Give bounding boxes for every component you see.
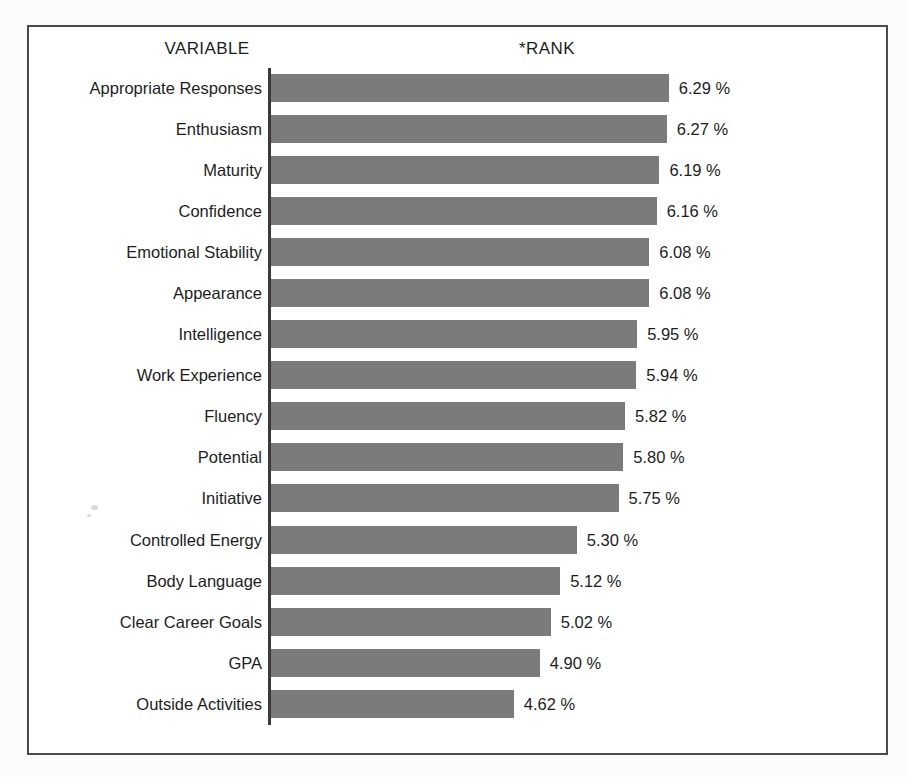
bar-category-label: Body Language — [146, 561, 262, 602]
bar-row: Appearance6.08 % — [29, 273, 890, 314]
bar — [271, 484, 619, 512]
bar-row: Potential5.80 % — [29, 437, 890, 478]
bar — [271, 567, 560, 595]
bar-value-label: 6.29 % — [679, 68, 730, 109]
bar-value-label: 6.27 % — [677, 109, 728, 150]
bar-category-label: Confidence — [179, 191, 262, 232]
bar-row: Work Experience5.94 % — [29, 355, 890, 396]
bar-row: Outside Activities4.62 % — [29, 684, 890, 725]
bar-row: Confidence6.16 % — [29, 191, 890, 232]
bar — [271, 115, 667, 143]
scan-speckle — [91, 505, 98, 510]
bar-row: Clear Career Goals5.02 % — [29, 602, 890, 643]
bar — [271, 402, 625, 430]
bar-track: 6.27 % — [271, 109, 890, 150]
bar-track: 4.90 % — [271, 643, 890, 684]
bar — [271, 526, 577, 554]
bar — [271, 320, 637, 348]
bar-category-label: Controlled Energy — [130, 520, 262, 561]
bar — [271, 156, 659, 184]
bar-category-label: Intelligence — [179, 314, 262, 355]
bar — [271, 649, 540, 677]
bar-track: 5.30 % — [271, 520, 890, 561]
bar-row: Body Language5.12 % — [29, 561, 890, 602]
bar-value-label: 4.90 % — [550, 643, 601, 684]
bar-track: 5.12 % — [271, 561, 890, 602]
bar — [271, 74, 669, 102]
bar — [271, 443, 623, 471]
bar-track: 6.08 % — [271, 273, 890, 314]
bar — [271, 608, 551, 636]
bar-category-label: Work Experience — [137, 355, 262, 396]
bar-row: Intelligence5.95 % — [29, 314, 890, 355]
bar-row: GPA4.90 % — [29, 643, 890, 684]
bar-category-label: Potential — [198, 437, 262, 478]
bar-track: 5.75 % — [271, 478, 890, 519]
bar-track: 5.82 % — [271, 396, 890, 437]
bar-category-label: Appropriate Responses — [90, 68, 262, 109]
bar-row: Maturity6.19 % — [29, 150, 890, 191]
bar-value-label: 5.75 % — [629, 478, 680, 519]
scan-speckle — [87, 514, 91, 517]
bar-value-label: 5.30 % — [587, 520, 638, 561]
bar-track: 4.62 % — [271, 684, 890, 725]
bar-value-label: 6.08 % — [659, 232, 710, 273]
bar-row: Appropriate Responses6.29 % — [29, 68, 890, 109]
bar-category-label: Fluency — [204, 396, 262, 437]
bar-value-label: 6.16 % — [667, 191, 718, 232]
bar-category-label: GPA — [228, 643, 262, 684]
bar-track: 5.94 % — [271, 355, 890, 396]
bar-value-label: 5.02 % — [561, 602, 612, 643]
bar — [271, 279, 649, 307]
bar-value-label: 6.19 % — [669, 150, 720, 191]
bar-rows: Appropriate Responses6.29 %Enthusiasm6.2… — [29, 68, 890, 725]
bar-track: 6.16 % — [271, 191, 890, 232]
chart-frame: VARIABLE *RANK Appropriate Responses6.29… — [27, 25, 888, 755]
bar-track: 5.02 % — [271, 602, 890, 643]
bar-category-label: Appearance — [173, 273, 262, 314]
bar-value-label: 5.95 % — [647, 314, 698, 355]
bar-category-label: Initiative — [201, 478, 262, 519]
bar-row: Enthusiasm6.27 % — [29, 109, 890, 150]
bar-row: Emotional Stability6.08 % — [29, 232, 890, 273]
bar-value-label: 5.12 % — [570, 561, 621, 602]
bar — [271, 238, 649, 266]
bar — [271, 197, 657, 225]
bar — [271, 361, 636, 389]
bar-value-label: 6.08 % — [659, 273, 710, 314]
bar-row: Initiative5.75 % — [29, 478, 890, 519]
bar-track: 6.29 % — [271, 68, 890, 109]
bar — [271, 690, 514, 718]
bar-category-label: Emotional Stability — [126, 232, 262, 273]
bar-category-label: Clear Career Goals — [120, 602, 262, 643]
bar-category-label: Maturity — [203, 150, 262, 191]
bar-row: Controlled Energy5.30 % — [29, 520, 890, 561]
bar-value-label: 4.62 % — [524, 684, 575, 725]
bar-track: 6.08 % — [271, 232, 890, 273]
bar-value-label: 5.82 % — [635, 396, 686, 437]
bar-track: 5.80 % — [271, 437, 890, 478]
bar-value-label: 5.80 % — [633, 437, 684, 478]
bar-chart-plot-area: Appropriate Responses6.29 %Enthusiasm6.2… — [29, 27, 886, 753]
bar-category-label: Enthusiasm — [176, 109, 262, 150]
bar-value-label: 5.94 % — [646, 355, 697, 396]
bar-category-label: Outside Activities — [136, 684, 262, 725]
bar-row: Fluency5.82 % — [29, 396, 890, 437]
bar-track: 5.95 % — [271, 314, 890, 355]
bar-track: 6.19 % — [271, 150, 890, 191]
